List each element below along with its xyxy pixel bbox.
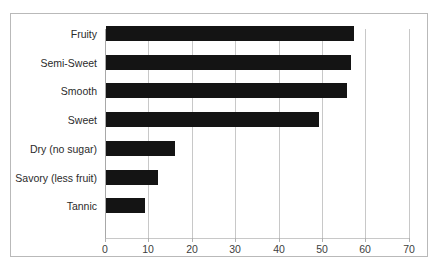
- gridline-70: [409, 29, 410, 238]
- bar-semi-sweet: [106, 55, 351, 70]
- category-label-tannic: Tannic: [67, 200, 97, 212]
- x-tick-40: [279, 238, 280, 242]
- category-label-savory: Savory (less fruit): [15, 172, 97, 184]
- x-tick-20: [192, 238, 193, 242]
- bar-sweet: [106, 112, 319, 127]
- bar-smooth: [106, 83, 347, 98]
- x-tick-50: [322, 238, 323, 242]
- x-tick-label-10: 10: [142, 243, 154, 255]
- x-tick-label-20: 20: [186, 243, 198, 255]
- category-label-smooth: Smooth: [61, 85, 97, 97]
- category-label-semi-sweet: Semi-Sweet: [40, 57, 97, 69]
- x-tick-label-40: 40: [273, 243, 285, 255]
- x-tick-60: [365, 238, 366, 242]
- x-tick-label-30: 30: [229, 243, 241, 255]
- x-tick-0: [105, 238, 106, 242]
- x-tick-30: [235, 238, 236, 242]
- x-tick-label-50: 50: [316, 243, 328, 255]
- bar-fruity: [106, 26, 354, 41]
- plot-area: 0 10 20 30 40 50 60 70 Fruity Semi-Sweet…: [11, 14, 427, 256]
- x-tick-70: [409, 238, 410, 242]
- x-axis-baseline: [105, 238, 409, 239]
- bar-savory: [106, 170, 158, 185]
- x-tick-label-0: 0: [102, 243, 108, 255]
- chart-frame: 0 10 20 30 40 50 60 70 Fruity Semi-Sweet…: [10, 13, 428, 257]
- x-tick-10: [148, 238, 149, 242]
- bar-tannic: [106, 198, 145, 213]
- gridline-60: [365, 29, 366, 238]
- bar-dry: [106, 141, 175, 156]
- category-label-sweet: Sweet: [68, 114, 97, 126]
- category-label-dry: Dry (no sugar): [30, 143, 97, 155]
- category-label-fruity: Fruity: [71, 28, 97, 40]
- x-tick-label-60: 60: [359, 243, 371, 255]
- x-tick-label-70: 70: [403, 243, 415, 255]
